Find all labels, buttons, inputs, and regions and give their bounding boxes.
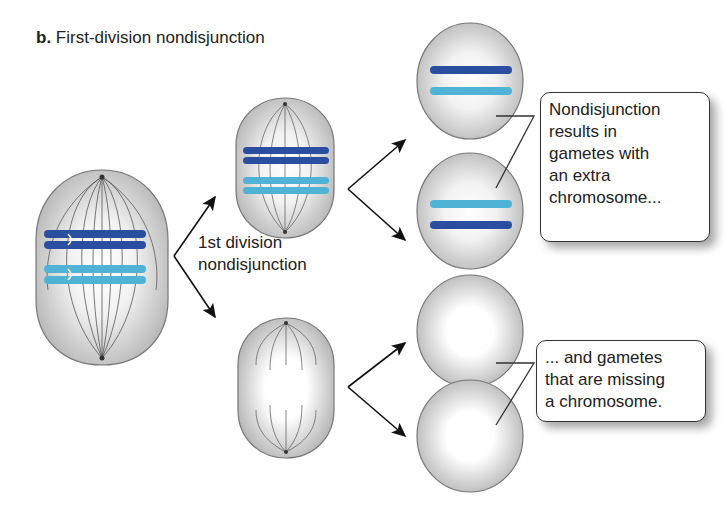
daughter-cell-bottom xyxy=(238,318,334,458)
centrosome-bottom xyxy=(100,356,105,361)
callout-1-line: chromosome... xyxy=(549,187,699,209)
gamete-missing-1 xyxy=(417,275,523,387)
callout-1-line: gametes with xyxy=(549,143,699,165)
gamete-missing-2 xyxy=(417,380,523,492)
callout-1-line: Nondisjunction xyxy=(549,99,699,121)
callout-missing-chromosome: ... and gametes that are missing a chrom… xyxy=(536,340,706,422)
process-label: 1st division nondisjunction xyxy=(198,232,307,276)
callout-1-line: results in xyxy=(549,121,699,143)
callout-extra-chromosome: Nondisjunction results in gametes with a… xyxy=(540,92,710,242)
callout-2-line: that are missing xyxy=(545,369,695,391)
callout-2-line: a chromosome. xyxy=(545,391,695,413)
process-label-line1: 1st division xyxy=(198,232,307,254)
daughter-cell-top xyxy=(236,98,334,238)
lower-division-arrows xyxy=(348,343,405,436)
nondisjunction-diagram xyxy=(0,0,726,506)
gamete-extra-1 xyxy=(417,23,523,139)
centrosome-top xyxy=(100,175,105,180)
callout-2-line: ... and gametes xyxy=(545,347,695,369)
division-arrows-2 xyxy=(348,140,405,240)
parent-cell xyxy=(36,170,168,365)
gamete-extra-2 xyxy=(417,153,523,269)
process-label-line2: nondisjunction xyxy=(198,254,307,276)
callout-1-line: an extra xyxy=(549,165,699,187)
